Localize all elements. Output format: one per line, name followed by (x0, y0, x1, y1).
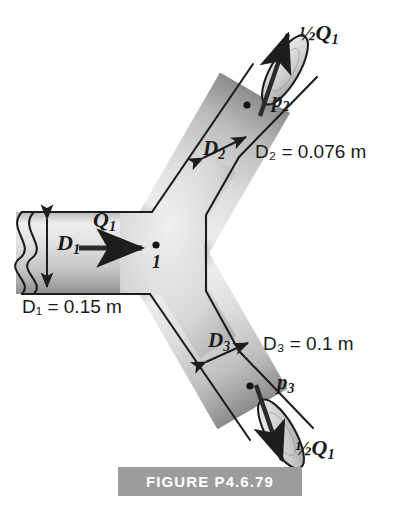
pipe-junction-diagram (0, 0, 404, 527)
branch3-pressure-dot (246, 382, 253, 389)
inlet-diameter-symbol-label: D1 (57, 232, 80, 257)
branch2-diameter-value-label: D₂ = 0.076 m (255, 142, 366, 161)
branch2-flow-label: ½Q1 (299, 22, 339, 47)
junction-point-dot (152, 241, 159, 248)
branch3-diameter-symbol-label: D3 (208, 330, 230, 354)
branch2-diameter-symbol-label: D2 (203, 138, 225, 162)
inlet-flow-label: Q1 (93, 209, 116, 234)
branch3-outlet-cap (249, 393, 312, 475)
branch2-pressure-label: p2 (272, 90, 289, 114)
branch3-flow-label: ½Q1 (295, 437, 335, 462)
inlet-diameter-value-label: D₁ = 0.15 m (22, 297, 122, 316)
junction-point-label: 1 (152, 253, 161, 271)
branch2-pressure-dot (243, 101, 250, 108)
figure-container: ½Q1 p2 D2 D₂ = 0.076 m D1 Q1 1 D₁ = 0.15… (0, 0, 404, 527)
branch3-diameter-value-label: D₃ = 0.1 m (263, 334, 354, 353)
figure-caption-text: FIGURE P4.6.79 (146, 473, 274, 490)
figure-caption-banner: FIGURE P4.6.79 (118, 467, 302, 496)
branch3-pressure-label: p3 (277, 372, 294, 396)
